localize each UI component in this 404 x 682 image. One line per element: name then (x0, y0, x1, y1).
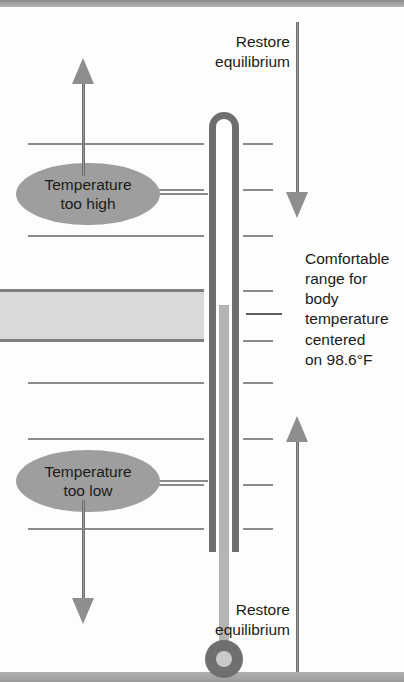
thermometer (205, 112, 243, 572)
comfort-range-leader-line (246, 313, 282, 315)
scale-tick (243, 340, 273, 342)
label-restore-equilibrium-top: Restore equilibrium (150, 32, 290, 72)
scale-rule (28, 438, 204, 440)
callout-low-line2: too low (63, 481, 112, 500)
restore-bottom-line1: Restore (150, 600, 290, 620)
arrow-down-right-head (286, 192, 308, 218)
comfort-line4: temperature (305, 309, 401, 329)
arrow-up-left-shaft (82, 78, 85, 176)
label-restore-equilibrium-bottom: Restore equilibrium (150, 600, 290, 640)
comfort-band-edge-top (0, 289, 204, 292)
scale-tick (243, 189, 273, 191)
restore-top-line1: Restore (150, 32, 290, 52)
scale-rule (28, 235, 204, 237)
scale-tick (243, 438, 273, 440)
callout-temperature-too-low: Temperature too low (16, 450, 160, 512)
scale-tick (243, 528, 273, 530)
thermometer-capillary (219, 124, 229, 305)
scale-tick (243, 484, 273, 486)
callout-temperature-too-high: Temperature too high (16, 163, 160, 225)
comfort-range-band (0, 291, 204, 341)
comfort-line3: body (305, 289, 401, 309)
arrow-up-right-head (286, 416, 308, 442)
arrow-down-right-shaft (296, 22, 299, 194)
thermometer-bulb (205, 640, 243, 678)
comfort-line5: centered (305, 330, 401, 350)
arrow-down-left-head (72, 598, 94, 624)
callout-high-line1: Temperature (44, 175, 131, 194)
comfort-band-edge-bottom (0, 339, 204, 342)
scale-tick (243, 382, 273, 384)
restore-bottom-line2: equilibrium (150, 620, 290, 640)
figure-canvas: Temperature too high Temperature too low… (0, 0, 404, 682)
comfort-line6: on 98.6°F (305, 350, 401, 370)
callout-high-line2: too high (60, 194, 115, 213)
callout-low-line1: Temperature (44, 462, 131, 481)
scale-rule (28, 143, 204, 145)
arrow-up-right-shaft (296, 440, 299, 672)
restore-top-line2: equilibrium (150, 52, 290, 72)
thermometer-bulb-inner (216, 651, 232, 667)
label-comfortable-range: Comfortable range for body temperature c… (305, 249, 401, 370)
scale-rule (28, 528, 204, 530)
scale-tick (243, 143, 273, 145)
page-band-bottom (0, 672, 404, 682)
scale-rule (28, 382, 204, 384)
page-band-top (0, 0, 404, 7)
comfort-line1: Comfortable (305, 249, 401, 269)
arrow-up-left-head (72, 58, 94, 84)
scale-tick (243, 235, 273, 237)
comfort-line2: range for (305, 269, 401, 289)
arrow-down-left-shaft (82, 500, 85, 600)
scale-tick (243, 290, 273, 292)
